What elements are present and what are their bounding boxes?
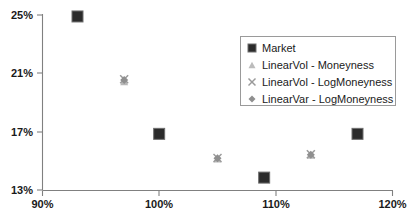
data-point-0-2 — [259, 172, 270, 183]
data-point-0-0 — [72, 11, 83, 22]
data-point-0-3 — [352, 128, 363, 139]
legend-marker-0 — [248, 44, 256, 52]
x-axis-label-110: 110% — [262, 198, 290, 210]
y-axis-label-25: 25% — [11, 9, 33, 21]
chart-background — [0, 0, 414, 223]
chart-canvas: 25% 21% 17% 13% 90% 100% 110% 120% Marke… — [0, 0, 414, 223]
legend-label-0: Market — [262, 42, 296, 54]
chart-legend: MarketLinearVol - MoneynessLinearVol - L… — [241, 37, 396, 106]
x-axis-label-100: 100% — [145, 198, 173, 210]
scatter-chart: 25% 21% 17% 13% 90% 100% 110% 120% Marke… — [0, 0, 414, 223]
x-axis-label-90: 90% — [31, 198, 53, 210]
y-axis-label-21: 21% — [11, 67, 33, 79]
x-axis-label-120: 120% — [378, 198, 406, 210]
legend-label-3: LinearVar - LogMoneyness — [262, 93, 394, 105]
data-point-0-1 — [154, 128, 165, 139]
legend-label-1: LinearVol - Moneyness — [262, 59, 374, 71]
legend-label-2: LinearVol - LogMoneyness — [262, 76, 393, 88]
y-axis-label-13: 13% — [11, 184, 33, 196]
y-axis-label-17: 17% — [11, 126, 33, 138]
